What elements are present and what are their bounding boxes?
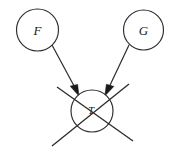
edge-g-to-t-line [108,45,130,91]
node-g[interactable]: G [124,10,164,50]
node-g-label: G [139,23,149,38]
causal-diagram: F G T [0,0,176,152]
arrowhead-f-to-t [70,84,79,96]
arrowhead-g-to-t [105,84,114,96]
edge-f-to-t [52,45,79,96]
node-f[interactable]: F [17,9,59,51]
edge-f-to-t-line [52,45,77,91]
node-f-label: F [33,23,43,38]
diagram-canvas: F G T [0,0,176,152]
edge-g-to-t [105,45,129,96]
